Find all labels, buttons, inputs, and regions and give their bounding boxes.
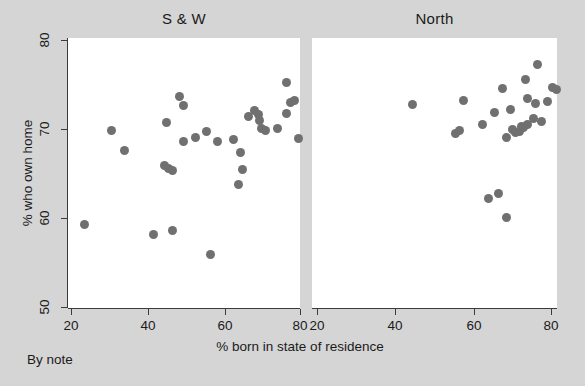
x-tick-label: 60	[217, 318, 232, 333]
data-point	[494, 189, 503, 198]
x-tick-label: 60	[466, 318, 481, 333]
y-tick-label: 80	[37, 32, 52, 47]
y-tick-label: 50	[37, 299, 52, 314]
data-point	[149, 230, 158, 239]
data-point	[191, 133, 200, 142]
data-point	[531, 99, 540, 108]
data-point	[120, 146, 129, 155]
x-tick	[395, 309, 396, 315]
y-tick-label: 70	[37, 121, 52, 136]
data-point	[502, 133, 511, 142]
data-point	[290, 96, 299, 105]
data-point	[294, 134, 303, 143]
data-point	[502, 213, 511, 222]
data-point	[168, 226, 177, 235]
x-tick-label: 20	[63, 318, 78, 333]
x-tick-label: 40	[387, 318, 402, 333]
data-point	[521, 75, 530, 84]
panel-title-sw: S & W	[68, 10, 300, 27]
x-tick-label: 20	[309, 318, 324, 333]
y-tick	[61, 129, 67, 130]
y-tick	[61, 40, 67, 41]
x-tick-label: 40	[140, 318, 155, 333]
panel-title-north: North	[312, 10, 557, 27]
data-point	[206, 250, 215, 259]
data-point	[236, 148, 245, 157]
x-tick-label: 80	[543, 318, 558, 333]
x-tick	[474, 309, 475, 315]
y-axis-line	[67, 38, 68, 308]
x-tick	[225, 309, 226, 315]
data-point	[168, 166, 177, 175]
figure-note: By note	[27, 352, 73, 367]
data-point	[107, 126, 116, 135]
data-point	[498, 84, 507, 93]
data-point	[229, 135, 238, 144]
data-point	[80, 220, 89, 229]
plot-area-sw	[68, 38, 300, 308]
figure-canvas: S & WNorth506070802040608020406080% born…	[0, 0, 585, 386]
data-point	[459, 96, 468, 105]
data-point	[533, 60, 542, 69]
x-tick	[148, 309, 149, 315]
x-tick	[71, 309, 72, 315]
data-point	[179, 137, 188, 146]
y-tick	[61, 218, 67, 219]
data-point	[484, 194, 493, 203]
x-axis-line	[312, 308, 557, 309]
y-tick	[61, 307, 67, 308]
x-tick-label: 80	[292, 318, 307, 333]
x-axis-line	[68, 308, 300, 309]
y-axis-title: % who own home	[20, 120, 35, 227]
y-tick-label: 60	[37, 210, 52, 225]
data-point	[408, 100, 417, 109]
data-point	[552, 85, 561, 94]
x-tick	[300, 309, 301, 315]
x-axis-title: % born in state of residence	[216, 339, 383, 354]
x-tick	[317, 309, 318, 315]
x-tick	[551, 309, 552, 315]
data-point	[273, 124, 282, 133]
data-point	[506, 105, 515, 114]
data-point	[543, 97, 552, 106]
